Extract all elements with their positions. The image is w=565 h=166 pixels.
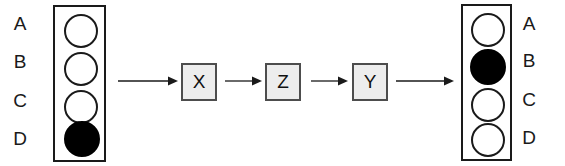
output-row-label-a: A (519, 14, 539, 33)
operation-label-y: Y (364, 71, 377, 93)
output-register (461, 4, 512, 161)
output-cell-d (471, 123, 505, 157)
operation-label-z: Z (277, 71, 289, 93)
input-row-label-b: B (10, 52, 30, 71)
input-cell-c (64, 90, 98, 124)
input-row-label-a: A (10, 14, 30, 33)
output-row-label-c: C (519, 90, 539, 109)
output-cell-a (471, 13, 505, 47)
arrow-y-to-output (396, 75, 454, 87)
input-cell-a (64, 14, 98, 48)
operation-box-z[interactable]: Z (265, 63, 301, 101)
input-row-label-d: D (10, 129, 30, 148)
state-transition-diagram: A B C D X Z Y (0, 0, 565, 166)
output-cell-c (471, 88, 505, 122)
arrow-input-to-x (118, 75, 178, 87)
operation-label-x: X (193, 71, 206, 93)
input-cell-d (64, 121, 100, 157)
input-row-label-c: C (10, 91, 30, 110)
operation-box-y[interactable]: Y (352, 63, 388, 101)
output-row-label-b: B (519, 51, 539, 70)
input-register (53, 5, 106, 162)
arrow-z-to-y (311, 75, 348, 87)
input-cell-b (64, 52, 98, 86)
arrow-x-to-z (225, 75, 262, 87)
output-cell-b (470, 49, 506, 85)
output-row-label-d: D (519, 128, 539, 147)
operation-box-x[interactable]: X (181, 63, 217, 101)
